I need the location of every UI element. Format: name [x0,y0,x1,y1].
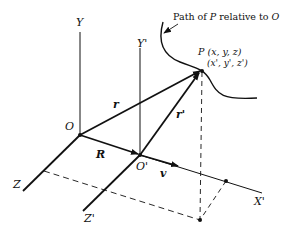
diagram-svg: Y Y' Z Z' X' O O' r r' R v Path of P rel… [0,0,282,243]
z-axis [23,135,80,191]
x-projection-dot [224,179,228,183]
label-Z: Z [12,178,21,191]
vector-r-prime [140,73,199,155]
dashed-vertical [200,72,202,220]
label-r-prime: r' [176,108,185,121]
dashed-x-projection [200,181,226,220]
label-v: v [160,167,167,180]
label-Y: Y [76,16,85,29]
label-O-prime: O' [136,160,148,173]
path-caption: Path of P relative to O [173,11,280,22]
origin-O-dot [78,133,82,137]
dashed-z-projection [44,171,200,220]
label-X-prime: X' [253,195,265,208]
caption-pointer [164,24,178,33]
label-P-prime-coords: (x', y', z') [207,58,248,68]
label-Y-prime: Y' [137,37,147,50]
label-r: r [113,98,120,111]
label-O: O [65,120,74,133]
base-projection-dot [198,218,202,222]
z-prime-axis [83,155,140,211]
point-P-dot [200,69,204,73]
origin-O-prime-dot [138,153,142,157]
label-R: R [95,148,105,161]
vector-R [80,135,138,154]
relative-motion-diagram: Y Y' Z Z' X' O O' r r' R v Path of P rel… [0,0,282,243]
label-Z-prime: Z' [83,212,95,225]
label-P-coords: P (x, y, z) [197,46,242,57]
